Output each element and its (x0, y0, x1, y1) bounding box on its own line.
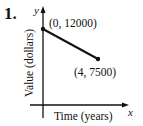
line-chart: y x Value (dollars) Time (years) (0, 120… (0, 0, 143, 126)
data-line (43, 29, 98, 59)
y-axis-arrow-icon (41, 6, 46, 13)
point-label-end: (4, 7500) (74, 66, 116, 79)
y-axis-letter: y (33, 4, 39, 16)
data-point-end (96, 57, 100, 61)
data-point-start (41, 27, 45, 31)
x-axis-label: Time (years) (54, 110, 113, 123)
x-axis-letter: x (127, 106, 133, 118)
point-label-start: (0, 12000) (49, 17, 97, 30)
y-axis-label: Value (dollars) (23, 29, 36, 97)
